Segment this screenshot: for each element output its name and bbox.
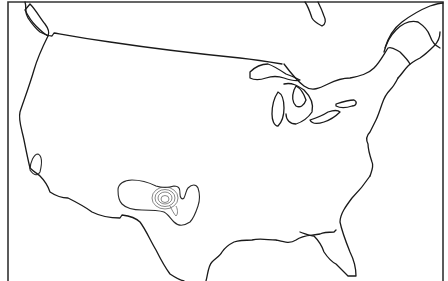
coastline-outline <box>19 2 443 281</box>
contour-texas-oklahoma <box>118 180 200 225</box>
contour-southern-california <box>30 154 41 175</box>
map-canvas <box>0 0 448 281</box>
map-frame <box>8 2 443 281</box>
great-lakes <box>250 64 356 126</box>
